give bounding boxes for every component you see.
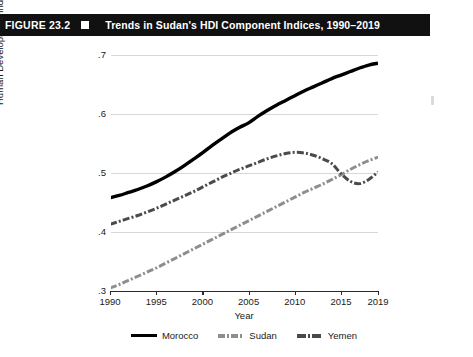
figure-title: Trends in Sudan's HDI Component Indices,… (105, 19, 380, 31)
figure-title-bar: FIGURE 23.2 Trends in Sudan's HDI Compon… (0, 14, 430, 36)
legend-label-yemen: Yemen (328, 330, 357, 341)
legend-item-sudan: Sudan (218, 330, 276, 341)
x-tick (295, 291, 296, 295)
yemen-line-swatch-icon (297, 334, 323, 338)
x-axis-line (110, 291, 378, 292)
x-tick (110, 291, 111, 295)
y-tick-label: .6 (88, 108, 106, 119)
y-axis-line (110, 55, 111, 291)
morocco-line-swatch-icon (131, 334, 157, 338)
y-tick-label: .5 (88, 167, 106, 178)
y-tick-label: .3 (88, 285, 106, 296)
sudan-line-swatch-icon (218, 334, 244, 338)
x-axis-title: Year (110, 310, 378, 321)
figure-container: FIGURE 23.2 Trends in Sudan's HDI Compon… (0, 0, 473, 357)
series-line-sudan (110, 157, 378, 288)
y-tick-label: .7 (88, 49, 106, 60)
series-lines (110, 55, 378, 291)
x-tick-label: 2019 (358, 296, 398, 307)
plot-area (110, 55, 378, 291)
scan-artifact (431, 96, 434, 105)
x-tick-label: 1995 (136, 296, 176, 307)
y-tick-label: .4 (88, 226, 106, 237)
x-tick (341, 291, 342, 295)
white-square-icon (81, 21, 89, 29)
x-tick (378, 291, 379, 295)
legend-label-sudan: Sudan (249, 330, 276, 341)
series-line-morocco (110, 63, 378, 198)
legend-item-morocco: Morocco (131, 330, 198, 341)
x-tick-label: 1990 (90, 296, 130, 307)
figure-number: FIGURE 23.2 (0, 19, 70, 31)
x-tick-label: 2000 (182, 296, 222, 307)
chart-legend: Morocco Sudan Yemen (110, 330, 378, 341)
y-axis-title: Human Development Index (0, 0, 5, 105)
legend-label-morocco: Morocco (162, 330, 198, 341)
x-tick (202, 291, 203, 295)
x-tick-label: 2010 (275, 296, 315, 307)
x-tick-label: 2005 (229, 296, 269, 307)
series-line-yemen (110, 152, 378, 224)
x-tick (156, 291, 157, 295)
x-tick-label: 2015 (321, 296, 361, 307)
x-tick (249, 291, 250, 295)
legend-item-yemen: Yemen (297, 330, 357, 341)
